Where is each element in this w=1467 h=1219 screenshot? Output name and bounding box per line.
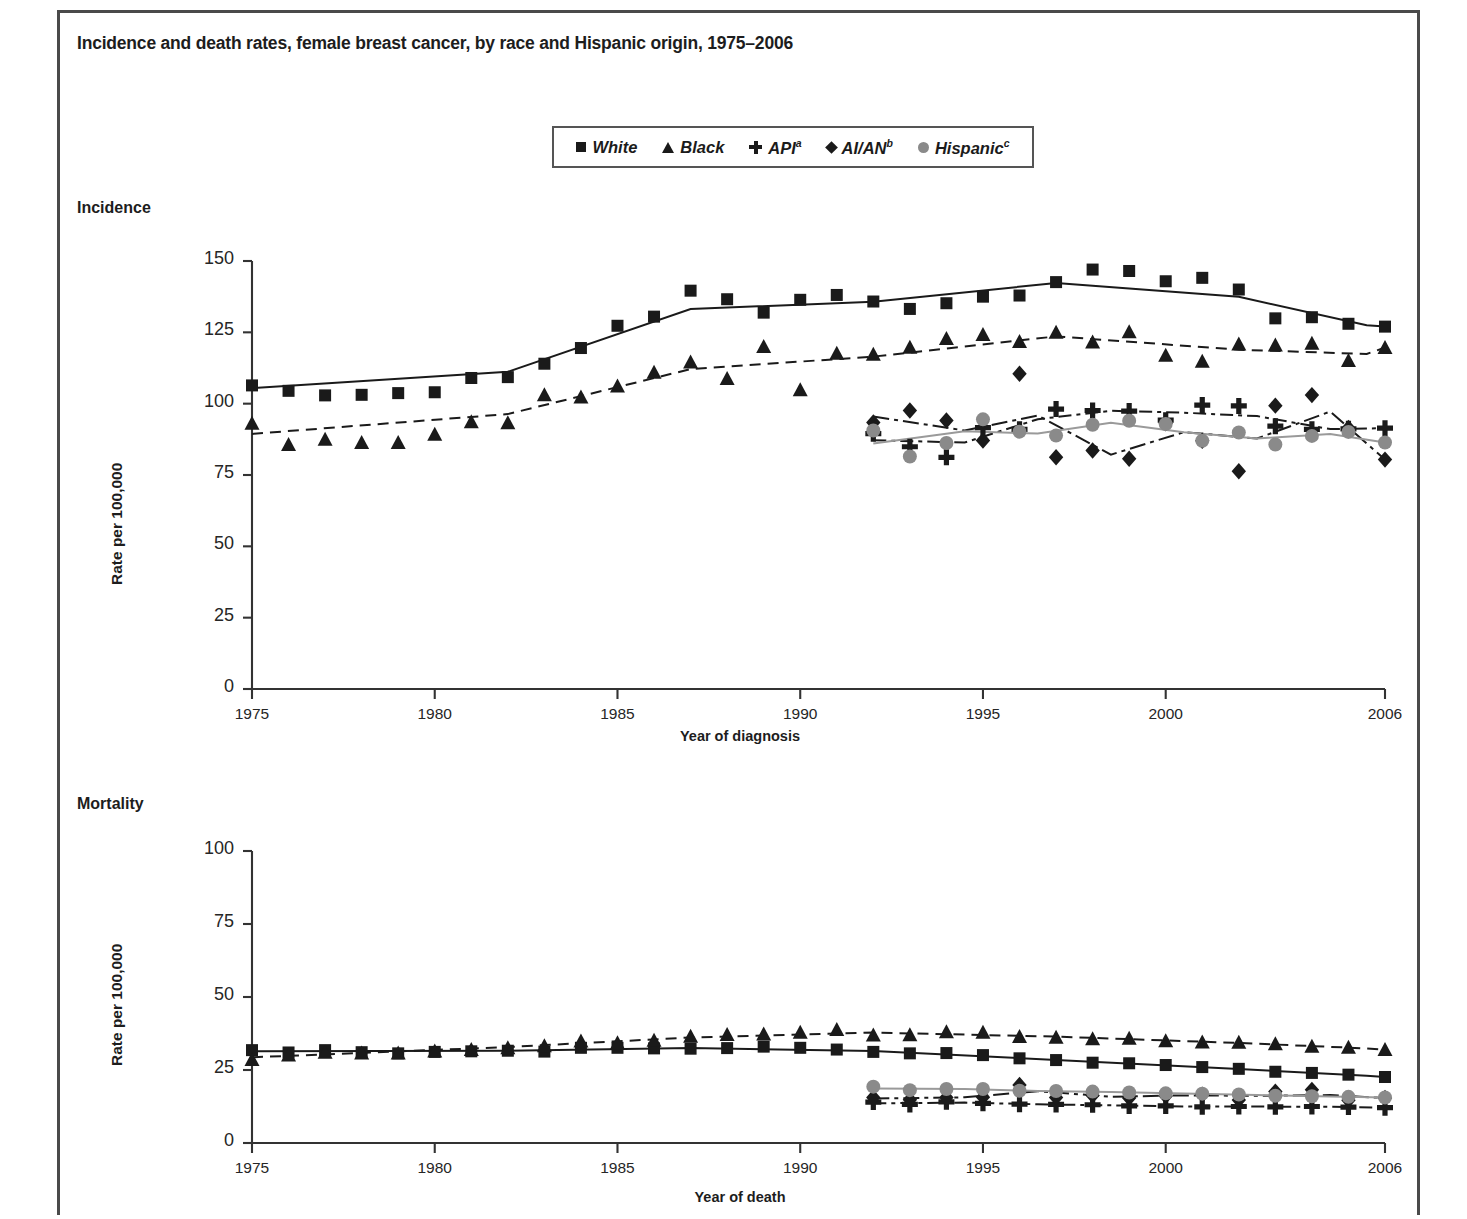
x-tick-label: 2006 (1355, 1159, 1415, 1177)
x-tick-label: 2000 (1136, 1159, 1196, 1177)
y-tick-label: 50 (186, 984, 234, 1005)
trendline-black (252, 336, 1385, 434)
legend-label-hispanic: Hispanicc (935, 137, 1010, 158)
circle-marker-icon (918, 142, 929, 153)
x-tick-label: 1980 (405, 1159, 465, 1177)
series-black-markers (245, 1022, 1393, 1066)
panel-label-mortality: Mortality (77, 795, 144, 813)
trendline-white (252, 1048, 1385, 1077)
figure-title: Incidence and death rates, female breast… (77, 33, 793, 54)
incidence-plot-area (120, 243, 1420, 713)
x-tick-label: 1985 (587, 1159, 647, 1177)
mortality-plot-area (120, 833, 1420, 1163)
series-black-markers (245, 324, 1393, 451)
trendline-black (252, 1033, 1385, 1058)
inc-plot-svg (120, 243, 1420, 713)
legend-item-white: White (576, 138, 637, 157)
x-tick-label: 1990 (770, 705, 830, 723)
x-tick-label: 2006 (1355, 705, 1415, 723)
y-tick-label: 100 (186, 391, 234, 412)
x-tick-label: 1990 (770, 1159, 830, 1177)
legend-label-black: Black (680, 138, 724, 157)
panel-label-incidence: Incidence (77, 199, 151, 217)
plus-marker-icon (749, 141, 762, 154)
y-tick-label: 100 (186, 838, 234, 859)
x-tick-label: 2000 (1136, 705, 1196, 723)
diamond-marker-icon (825, 141, 838, 154)
mortality-x-axis-label: Year of death (620, 1189, 860, 1205)
y-tick-label: 0 (186, 1130, 234, 1151)
legend-label-aian: AI/ANb (842, 137, 893, 158)
trendline-white (252, 283, 1385, 388)
x-tick-label: 1975 (222, 705, 282, 723)
series-white-markers (246, 264, 1391, 402)
y-tick-label: 50 (186, 533, 234, 554)
x-tick-label: 1995 (953, 1159, 1013, 1177)
y-tick-label: 125 (186, 319, 234, 340)
legend-label-white: White (592, 138, 637, 157)
legend-item-aian: AI/ANb (827, 137, 893, 158)
y-tick-label: 25 (186, 1057, 234, 1078)
legend-label-api: APIa (768, 137, 801, 158)
mor-plot-svg (120, 833, 1420, 1163)
y-tick-label: 75 (186, 911, 234, 932)
triangle-marker-icon (662, 142, 674, 153)
square-marker-icon (576, 142, 586, 152)
y-tick-label: 150 (186, 248, 234, 269)
x-tick-label: 1975 (222, 1159, 282, 1177)
x-tick-label: 1980 (405, 705, 465, 723)
incidence-x-axis-label: Year of diagnosis (620, 728, 860, 744)
chart-legend: White Black APIa AI/ANb Hispanicc (552, 126, 1034, 168)
series-white-markers (246, 1041, 1391, 1083)
legend-item-api: APIa (749, 137, 801, 158)
x-tick-label: 1985 (587, 705, 647, 723)
axes (243, 261, 1385, 699)
y-tick-label: 75 (186, 462, 234, 483)
x-tick-label: 1995 (953, 705, 1013, 723)
figure-frame: Incidence and death rates, female breast… (57, 10, 1420, 1215)
y-tick-label: 25 (186, 605, 234, 626)
axes (243, 851, 1385, 1153)
y-tick-label: 0 (186, 676, 234, 697)
legend-item-black: Black (662, 138, 724, 157)
legend-item-hispanic: Hispanicc (918, 137, 1010, 158)
